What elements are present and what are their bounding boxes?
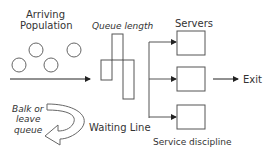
population-circle — [44, 58, 58, 72]
servers — [177, 31, 205, 129]
queue-bar — [123, 60, 134, 99]
service-channels — [149, 42, 176, 118]
waiting-line-label: Waiting Line — [89, 122, 151, 133]
population-circle — [29, 43, 43, 57]
balk-label-2: leave — [16, 114, 40, 125]
population-circle — [67, 43, 81, 57]
queue-bar — [112, 34, 123, 60]
servers-label: Servers — [175, 18, 213, 29]
server-box — [177, 105, 205, 129]
population-circle — [12, 58, 26, 72]
server-box — [177, 67, 205, 91]
queue-bar — [101, 60, 112, 80]
population-circles — [12, 43, 81, 72]
service-discipline-label: Service discipline — [153, 137, 231, 148]
arriving-population-label-1: Arriving — [26, 9, 65, 20]
exit-label: Exit — [243, 74, 262, 85]
server-box — [177, 31, 205, 55]
balk-label-3: queue — [14, 125, 42, 136]
balk-arrow-icon — [45, 104, 84, 145]
queue-bars — [101, 34, 134, 99]
queue-length-label: Queue length — [92, 21, 153, 32]
arriving-population-label-2: Population — [20, 20, 73, 31]
